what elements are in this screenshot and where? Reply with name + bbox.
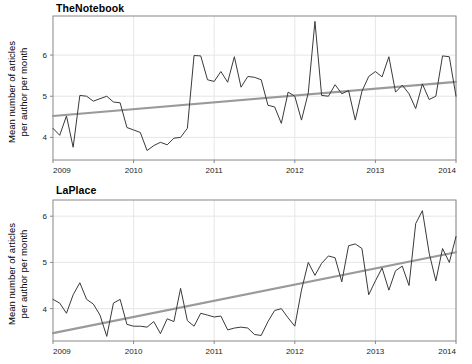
x-tick-label: 2011 xyxy=(206,347,224,356)
data-series-line xyxy=(53,211,456,337)
x-tick-label: 2012 xyxy=(286,166,304,175)
plot-area-thenotebook: 456200920102011201220132014 xyxy=(0,0,472,182)
x-tick-label: 2011 xyxy=(206,166,224,175)
trend-line xyxy=(53,82,456,116)
y-tick-label: 5 xyxy=(43,92,48,101)
trend-line xyxy=(53,252,456,333)
plot-area-laplace: 456200920102011201220132014 xyxy=(0,182,472,364)
x-tick-label: 2010 xyxy=(125,166,143,175)
panel-thenotebook: TheNotebook Mean number of articles per … xyxy=(0,0,472,182)
x-tick-label: 2009 xyxy=(53,166,71,175)
y-tick-label: 6 xyxy=(43,212,48,221)
x-tick-label: 2013 xyxy=(367,347,385,356)
x-tick-label: 2012 xyxy=(286,347,304,356)
x-tick-label: 2009 xyxy=(53,347,71,356)
y-tick-label: 4 xyxy=(43,305,48,314)
y-tick-label: 5 xyxy=(43,258,48,267)
x-tick-label: 2014 xyxy=(438,166,456,175)
x-tick-label: 2010 xyxy=(125,347,143,356)
panel-laplace: LaPlace Mean number of articles per auth… xyxy=(0,182,472,364)
x-tick-label: 2014 xyxy=(438,347,456,356)
y-tick-label: 6 xyxy=(43,51,48,60)
figure-two-panel-timeseries: TheNotebook Mean number of articles per … xyxy=(0,0,472,364)
y-tick-label: 4 xyxy=(43,133,48,142)
x-tick-label: 2013 xyxy=(367,166,385,175)
